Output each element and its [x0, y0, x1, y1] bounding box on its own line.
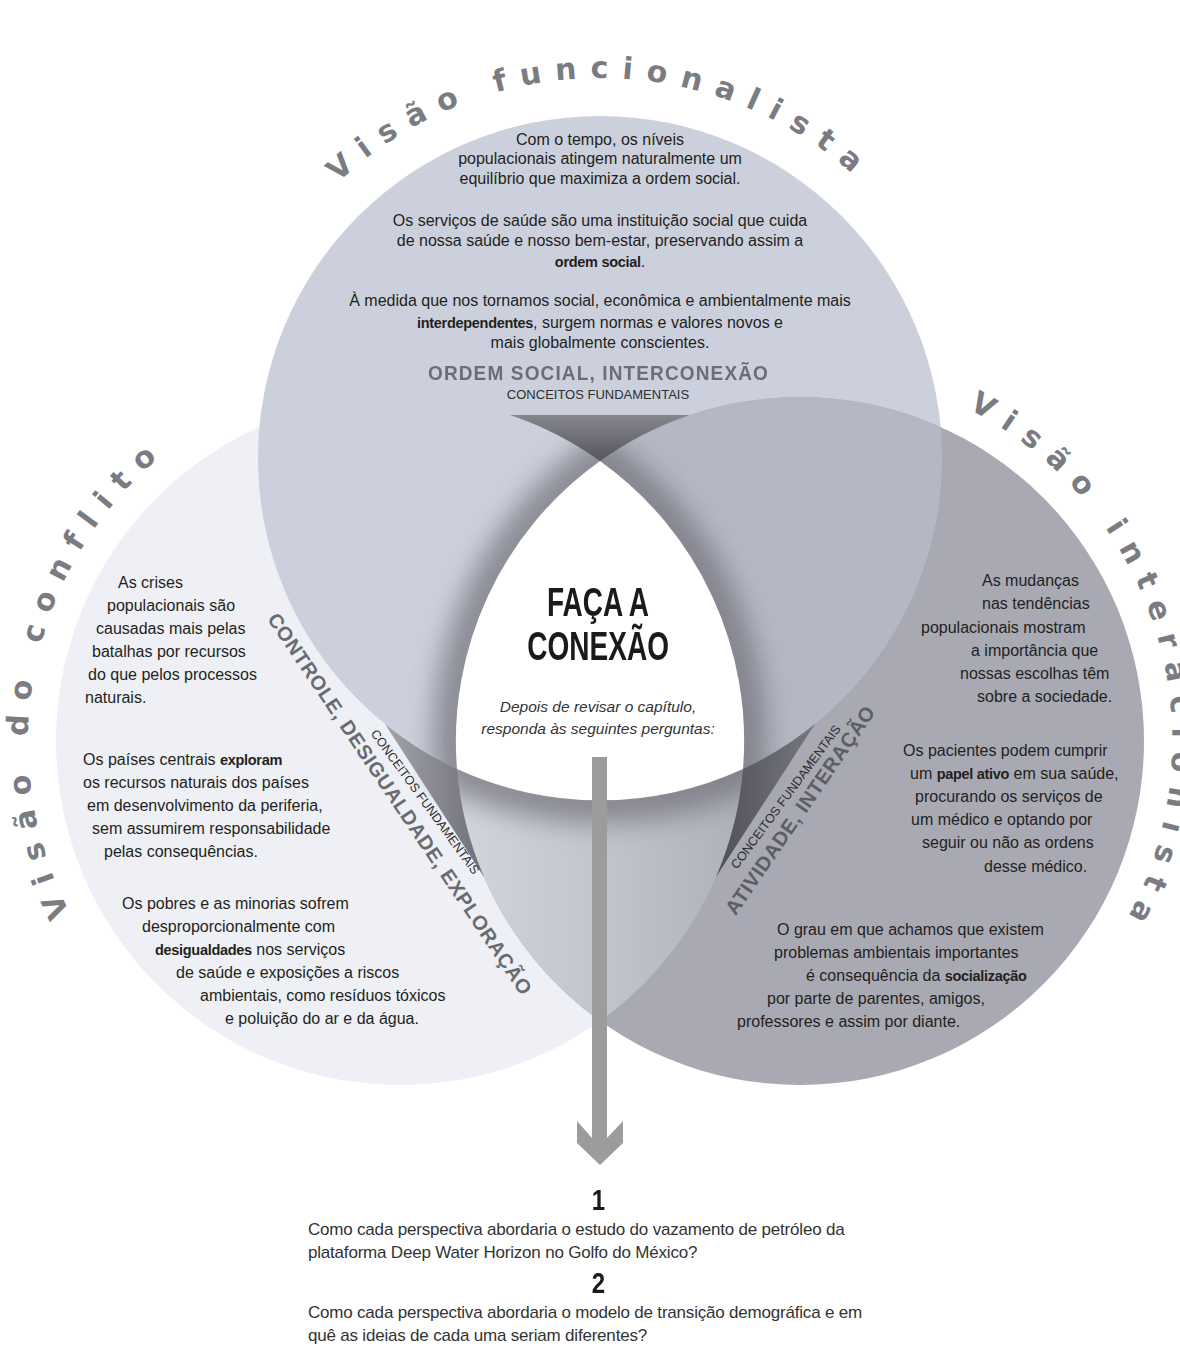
text-line: equilíbrio que maximiza a ordem social.	[0, 169, 1180, 189]
text-line: professores e assim por diante.	[737, 1010, 960, 1033]
text-line: Os pobres e as minorias sofrem	[122, 892, 349, 915]
text-line: procurando os serviços de	[915, 785, 1103, 808]
text-line: ordem social.	[0, 252, 1180, 272]
text-line: Os serviços de saúde são uma instituição…	[0, 211, 1180, 231]
question-text-line: plataforma Deep Water Horizon no Golfo d…	[308, 1241, 697, 1264]
bold-term: ordem social	[555, 254, 641, 270]
bold-term: exploram	[220, 752, 282, 768]
text-line: um papel ativo em sua saúde,	[910, 762, 1119, 785]
center-subtitle-line: responda às seguintes perguntas:	[0, 719, 1180, 739]
text-line: por parte de parentes, amigos,	[767, 987, 985, 1010]
functionalist-key-concepts: ORDEM SOCIAL, INTERCONEXÃO	[0, 361, 1180, 385]
text-segment: , surgem normas e valores novos e	[533, 314, 783, 331]
text-line: Com o tempo, os níveis	[0, 130, 1180, 150]
text-line: À medida que nos tornamos social, econôm…	[0, 291, 1180, 311]
text-segment: é consequência da	[806, 967, 945, 984]
text-line: mais globalmente conscientes.	[0, 333, 1180, 353]
text-line: seguir ou não as ordens	[922, 831, 1094, 854]
text-segment: Os países centrais	[83, 751, 220, 768]
text-segment: em sua saúde,	[1009, 765, 1118, 782]
text-line: os recursos naturais dos países	[83, 771, 309, 794]
center-subtitle-line: Depois de revisar o capítulo,	[0, 697, 1180, 717]
text-line: desproporcionalmente com	[142, 915, 335, 938]
functionalist-key-concepts-label: CONCEITOS FUNDAMENTAIS	[0, 387, 1180, 402]
key-concepts-text: ORDEM SOCIAL, INTERCONEXÃO	[427, 361, 768, 385]
bold-term: papel ativo	[937, 766, 1009, 782]
center-title-line: FAÇA A	[0, 580, 1180, 624]
text-segment: .	[641, 253, 645, 270]
text-line: problemas ambientais importantes	[774, 941, 1019, 964]
center-title-line: CONEXÃO	[0, 624, 1180, 668]
text-line: de saúde e exposições a riscos	[176, 961, 399, 984]
bold-term: interdependentes	[417, 315, 533, 331]
text-line: um médico e optando por	[911, 808, 1092, 831]
text-line: sem assumirem responsabilidade	[92, 817, 330, 840]
question-text-line: quê as ideias de cada uma seriam diferen…	[308, 1324, 647, 1347]
question-number: 2	[0, 1265, 1180, 1301]
question-number-text: 2	[591, 1265, 604, 1301]
text-line: interdependentes, surgem normas e valore…	[0, 313, 1180, 333]
question-text-line: Como cada perspectiva abordaria o modelo…	[308, 1301, 862, 1324]
text-line: O grau em que achamos que existem	[777, 918, 1044, 941]
text-line: desse médico.	[984, 855, 1087, 878]
text-segment: nos serviços	[252, 941, 345, 958]
text-line: ambientais, como resíduos tóxicos	[200, 984, 445, 1007]
bold-term: socialização	[945, 968, 1027, 984]
text-line: em desenvolvimento da periferia,	[87, 794, 323, 817]
center-title-text: CONEXÃO	[527, 624, 669, 668]
text-line: é consequência da socialização	[806, 964, 1027, 987]
text-line: desigualdades nos serviços	[155, 938, 345, 961]
question-number: 1	[0, 1182, 1180, 1218]
text-line: e poluição do ar e da água.	[225, 1007, 419, 1030]
text-line: populacionais atingem naturalmente um	[0, 149, 1180, 169]
text-line: Os países centrais exploram	[83, 748, 282, 771]
center-title-text: FAÇA A	[547, 580, 649, 624]
question-number-text: 1	[591, 1182, 604, 1218]
question-text-line: Como cada perspectiva abordaria o estudo…	[308, 1218, 844, 1241]
text-line: pelas consequências.	[104, 840, 258, 863]
text-line: de nossa saúde e nosso bem-estar, preser…	[0, 231, 1180, 251]
bold-term: desigualdades	[155, 942, 252, 958]
text-segment: um	[910, 765, 937, 782]
text-line: Os pacientes podem cumprir	[903, 739, 1108, 762]
